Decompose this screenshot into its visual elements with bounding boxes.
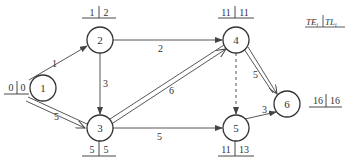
edge-4-6-critical: 5: [244, 47, 277, 94]
svg-text:6: 6: [169, 85, 174, 96]
legend: TEi TLi: [305, 15, 345, 28]
svg-text:1: 1: [40, 82, 46, 94]
svg-text:2: 2: [104, 7, 109, 18]
svg-text:3: 3: [262, 104, 267, 115]
svg-text:5: 5: [90, 144, 95, 155]
svg-text:16: 16: [330, 95, 340, 106]
svg-text:5: 5: [253, 69, 258, 80]
svg-text:3: 3: [97, 122, 103, 134]
edge-2-3: 3: [100, 53, 108, 114]
edge-5-6: 3: [245, 104, 276, 119]
node-6: 6 16 16: [274, 91, 342, 117]
svg-text:1: 1: [52, 58, 57, 69]
svg-text:11: 11: [221, 144, 231, 155]
svg-text:5: 5: [54, 111, 59, 122]
svg-text:6: 6: [284, 98, 290, 110]
svg-text:11: 11: [221, 7, 231, 18]
node-4: 4 11 11: [218, 6, 254, 53]
svg-text:0: 0: [9, 82, 14, 93]
svg-text:5: 5: [104, 144, 109, 155]
svg-text:2: 2: [97, 34, 103, 46]
svg-text:2: 2: [158, 43, 163, 54]
svg-text:0: 0: [21, 82, 26, 93]
edge-2-4: 2: [113, 40, 222, 54]
svg-text:13: 13: [239, 144, 249, 155]
node-3: 3 5 5: [82, 115, 116, 156]
svg-text:5: 5: [233, 122, 239, 134]
node-5: 5 11 13: [218, 115, 254, 156]
edge-3-5: 5: [113, 128, 222, 142]
svg-text:16: 16: [313, 95, 323, 106]
edge-3-4-critical: 6: [110, 45, 226, 123]
node-2: 2 1 2: [82, 6, 116, 53]
svg-text:4: 4: [233, 34, 239, 46]
edge-1-2: 1: [29, 46, 87, 80]
svg-text:TEi: TEi: [306, 17, 319, 28]
network-diagram: 1 5 3 2 6 5 5 3 1 0 0: [0, 0, 348, 164]
svg-text:5: 5: [157, 131, 162, 142]
svg-text:3: 3: [103, 78, 108, 89]
svg-text:11: 11: [239, 7, 249, 18]
svg-text:TLi: TLi: [325, 17, 337, 28]
edge-1-3-critical: 5: [26, 97, 87, 128]
svg-text:1: 1: [90, 7, 95, 18]
